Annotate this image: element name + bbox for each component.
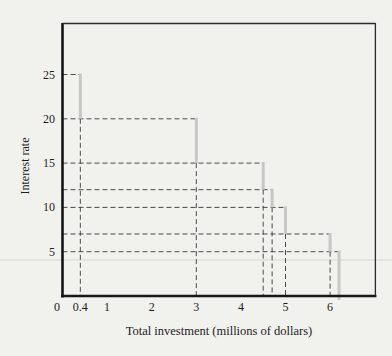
y-tick-label: 15	[0, 157, 55, 170]
x-tick-label: 5	[283, 301, 289, 314]
x-tick-label: 0	[54, 301, 60, 314]
x-tick-label: 2	[149, 301, 155, 314]
x-axis-title: Total investment (millions of dollars)	[62, 324, 376, 339]
x-tick-label: 1	[104, 301, 110, 314]
y-tick-label: 10	[0, 201, 55, 214]
x-tick-label: 6	[327, 301, 333, 314]
y-tick-label: 25	[0, 68, 55, 81]
x-tick-label: 4	[238, 301, 244, 314]
x-tick-label: 0.4	[73, 301, 88, 314]
x-tick-label: 3	[193, 301, 199, 314]
investment-demand-step-chart: Interest rate Total investment (millions…	[0, 0, 392, 356]
y-tick-label: 5	[0, 245, 55, 258]
y-tick-label: 20	[0, 112, 55, 125]
